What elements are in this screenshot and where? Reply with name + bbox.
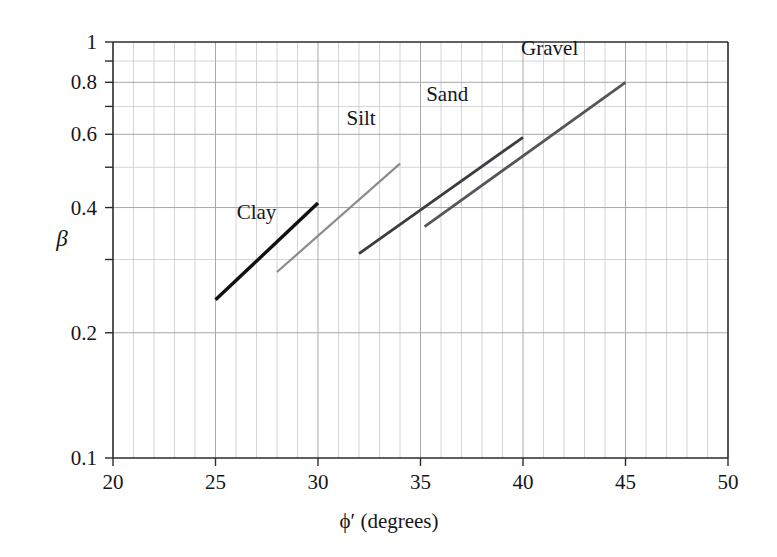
y-axis-title: β	[55, 226, 68, 251]
series-label-clay: Clay	[237, 200, 277, 224]
y-tick-label: 0.8	[71, 70, 97, 94]
y-tick-label: 0.2	[71, 321, 97, 345]
x-tick-label: 25	[205, 470, 226, 494]
x-tick-label: 45	[615, 470, 636, 494]
x-tick-label: 50	[718, 470, 739, 494]
beta-vs-phi-log-chart: 20253035404550 0.10.20.40.60.81 ClaySilt…	[0, 0, 777, 557]
series-label-gravel: Gravel	[521, 36, 578, 60]
chart-container: 20253035404550 0.10.20.40.60.81 ClaySilt…	[0, 0, 777, 557]
series-label-silt: Silt	[346, 106, 375, 130]
x-tick-label: 35	[410, 470, 431, 494]
y-tick-label: 0.1	[71, 446, 97, 470]
y-tick-label: 0.4	[71, 196, 98, 220]
x-axis-title: ϕ′ (degrees)	[339, 509, 438, 533]
y-tick-label: 1	[87, 30, 98, 54]
x-tick-label: 20	[103, 470, 124, 494]
series-label-sand: Sand	[426, 82, 469, 106]
x-tick-label: 40	[513, 470, 534, 494]
y-tick-label: 0.6	[71, 122, 97, 146]
x-tick-label: 30	[308, 470, 329, 494]
